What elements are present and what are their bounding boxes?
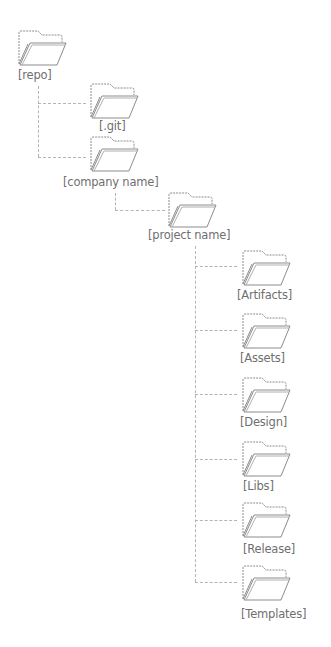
node-label: [repo] — [18, 68, 52, 82]
connector-project-assets — [195, 330, 237, 331]
node-label: [Release] — [243, 542, 295, 556]
connector-project-release — [195, 520, 237, 521]
connector-repo-company — [38, 157, 86, 158]
connector-project-design — [195, 394, 237, 395]
folder-open-icon — [240, 502, 292, 538]
connector-company-project — [115, 210, 165, 211]
folder-open-icon — [240, 313, 292, 349]
connector-project-trunk — [195, 246, 196, 582]
folder-open-icon — [240, 250, 292, 286]
connector-repo-git — [38, 103, 86, 104]
node-label: [Libs] — [243, 479, 274, 493]
folder-open-icon — [240, 377, 292, 413]
node-label: [Artifacts] — [237, 288, 292, 302]
connector-project-templates — [195, 582, 237, 583]
connector-project-artifacts — [195, 266, 237, 267]
node-label: [Templates] — [241, 607, 306, 621]
folder-open-icon — [240, 441, 292, 477]
folder-open-icon — [88, 136, 140, 172]
connector-company-trunk — [115, 193, 116, 210]
connector-project-libs — [195, 459, 237, 460]
folder-open-icon — [166, 192, 218, 228]
node-label: [company name] — [63, 175, 158, 189]
node-label: [Design] — [240, 415, 287, 429]
node-label: [project name] — [148, 228, 230, 242]
connector-repo-trunk — [38, 86, 39, 157]
folder-open-icon — [88, 83, 140, 119]
node-label: [Assets] — [240, 351, 285, 365]
folder-open-icon — [16, 30, 68, 66]
node-label: [.git] — [99, 119, 125, 133]
folder-open-icon — [240, 565, 292, 601]
